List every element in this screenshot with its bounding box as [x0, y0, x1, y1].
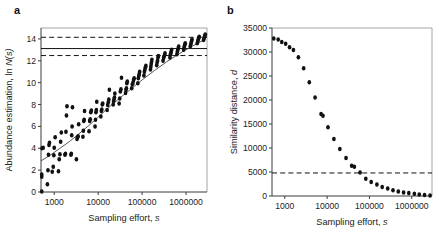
x-axis-title-italic: s: [155, 213, 160, 223]
data-point: [71, 105, 75, 110]
data-point: [95, 108, 99, 113]
data-point: [113, 95, 117, 100]
data-point: [307, 80, 311, 85]
data-point: [297, 55, 301, 60]
data-point: [170, 48, 174, 53]
y-tick-label: 12: [26, 56, 36, 66]
data-point: [163, 51, 167, 56]
data-point: [375, 182, 379, 187]
data-point: [40, 189, 44, 194]
y-axis-title: Abundance estimation, ln N(s): [4, 48, 14, 171]
data-point: [130, 86, 134, 91]
x-tick-label: 100000: [128, 197, 157, 207]
data-point: [47, 153, 51, 158]
data-point: [83, 109, 87, 114]
data-point: [292, 48, 296, 53]
data-point: [101, 101, 105, 106]
data-point: [107, 97, 111, 102]
y-tick-label: 10000: [243, 143, 267, 153]
data-point: [53, 135, 57, 140]
panel-a: 024681012141000100001000001000000Samplin…: [4, 28, 207, 223]
data-point: [369, 180, 373, 185]
y-tick-label: 0: [262, 191, 267, 201]
data-point: [313, 95, 317, 100]
data-point: [358, 170, 362, 175]
data-point: [150, 57, 154, 62]
data-point: [117, 101, 121, 106]
data-point: [99, 114, 103, 119]
data-point: [177, 44, 181, 49]
data-point: [69, 151, 73, 156]
figure-container: a b 024681012141000100001000001000000Sam…: [0, 0, 444, 247]
panel-b: 0500010000150002000025000300003500010001…: [229, 23, 432, 227]
data-point: [76, 134, 80, 139]
data-point: [59, 139, 63, 144]
data-point: [332, 137, 336, 142]
data-point: [41, 145, 45, 150]
data-point: [40, 172, 44, 177]
y-tick-label: 8: [31, 100, 36, 110]
data-point: [65, 113, 69, 118]
y-tick-label: 2: [31, 165, 36, 175]
data-point: [125, 79, 129, 84]
data-point: [396, 189, 400, 194]
figure-svg: 024681012141000100001000001000000Samplin…: [0, 0, 444, 247]
data-point: [413, 192, 417, 197]
data-point: [344, 156, 348, 161]
x-tick-label: 10000: [315, 201, 339, 211]
data-point: [364, 176, 368, 181]
fit-curve: [41, 39, 206, 161]
data-point: [402, 190, 406, 195]
x-axis-title: Sampling effort, s: [316, 217, 388, 227]
data-point: [353, 164, 357, 169]
x-tick-label: 10000: [86, 197, 110, 207]
data-point: [52, 153, 56, 158]
data-point: [407, 191, 411, 196]
x-axis-title-italic: s: [383, 217, 388, 227]
data-point: [46, 168, 50, 173]
data-point: [125, 86, 129, 91]
data-point: [105, 108, 109, 113]
data-point: [70, 133, 74, 138]
data-point: [51, 165, 55, 170]
y-tick-label: 14: [26, 34, 36, 44]
data-point: [386, 186, 390, 191]
data-point: [197, 35, 201, 40]
data-point: [94, 118, 98, 123]
y-tick-label: 15000: [243, 119, 267, 129]
data-point: [276, 37, 280, 42]
data-point: [64, 151, 68, 156]
data-point: [58, 152, 62, 157]
data-point: [120, 76, 124, 81]
x-tick-label: 1000000: [395, 201, 429, 211]
data-point: [93, 124, 97, 128]
data-point: [75, 157, 79, 162]
data-point: [82, 129, 86, 134]
data-point: [48, 141, 52, 146]
y-tick-label: 0: [31, 187, 36, 197]
data-point: [190, 37, 194, 42]
data-point: [132, 76, 136, 81]
data-point: [142, 73, 146, 78]
x-tick-label: 1000000: [169, 197, 203, 207]
data-point: [88, 117, 92, 122]
data-point: [338, 147, 342, 152]
data-point: [52, 145, 56, 150]
data-point: [90, 108, 94, 113]
data-point: [119, 87, 123, 92]
data-point: [46, 182, 50, 187]
data-point: [203, 32, 207, 37]
y-tick-label: 25000: [243, 71, 267, 81]
data-point: [70, 124, 74, 128]
data-point: [64, 130, 68, 135]
data-point: [144, 63, 148, 68]
y-axis-title-italic: d: [229, 69, 239, 75]
data-point: [136, 81, 140, 86]
data-point: [65, 104, 69, 109]
data-point: [428, 193, 432, 198]
data-point: [100, 107, 104, 112]
data-point: [272, 36, 276, 41]
data-point: [138, 69, 142, 74]
data-point: [321, 114, 325, 119]
data-point: [183, 41, 187, 46]
